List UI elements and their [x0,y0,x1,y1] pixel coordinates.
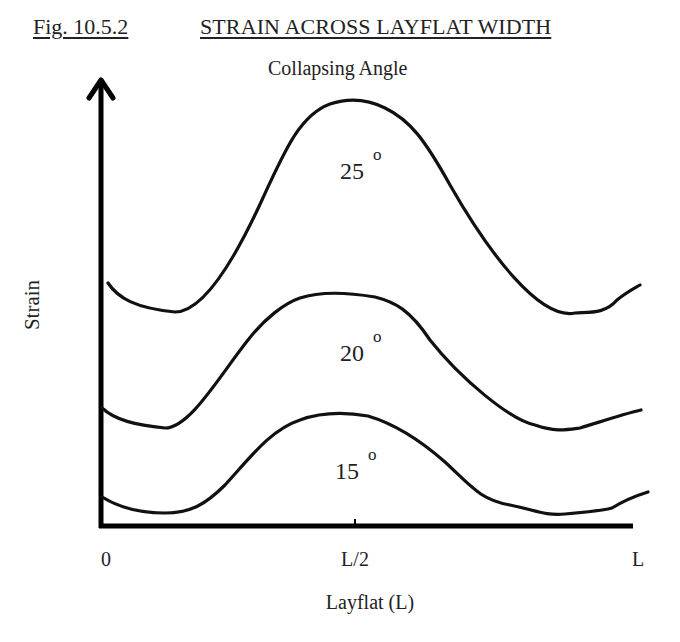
x-tick-L: L [632,548,644,571]
curve-label-20: 20 [340,340,364,367]
x-axis-label: Layflat (L) [326,591,414,614]
curve-20-deg [102,293,641,430]
chart-plot [0,0,680,642]
curve-label-25: 25 [340,158,364,185]
degree-symbol-15: o [368,445,377,465]
y-axis-label: Strain [20,280,45,330]
x-tick-0: 0 [101,548,111,571]
degree-symbol-25: o [373,145,382,165]
curve-label-15: 15 [335,458,359,485]
curve-25-deg [108,100,640,314]
degree-symbol-20: o [373,327,382,347]
x-tick-half: L/2 [341,548,369,571]
